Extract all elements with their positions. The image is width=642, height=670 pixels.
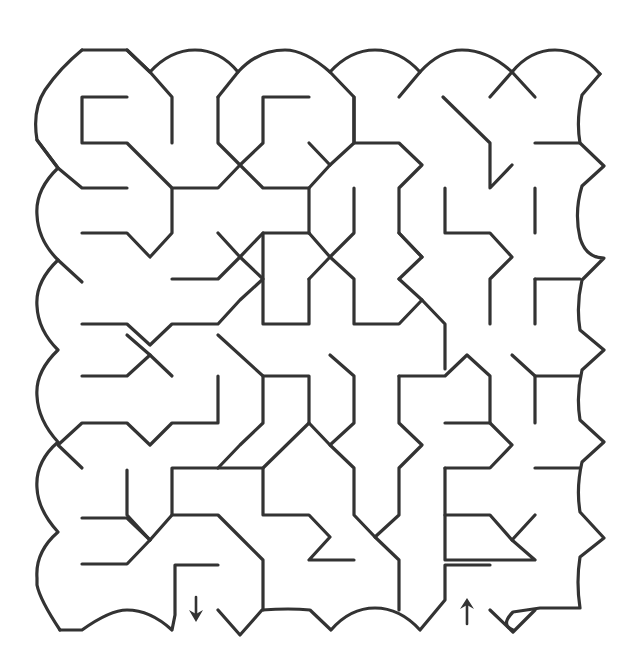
wall-segment	[422, 300, 445, 369]
wall-segment	[330, 72, 422, 257]
wall-segment	[82, 540, 150, 564]
wall-segment	[330, 257, 422, 324]
wall-segment	[82, 233, 309, 345]
outer-wall-bottom	[60, 565, 218, 630]
wall-segment	[309, 233, 330, 279]
wall-segment	[82, 355, 172, 376]
outer-wall-left	[36, 50, 82, 630]
maze-svg	[0, 0, 642, 670]
wall-segment	[218, 72, 238, 97]
wall-segment	[399, 233, 422, 279]
wall-segment	[58, 376, 218, 468]
wall-segment	[218, 335, 263, 468]
maze-walls	[36, 50, 604, 635]
wall-segment	[375, 376, 422, 537]
wall-segment	[127, 470, 150, 540]
wall-segment	[127, 335, 150, 355]
wall-segment	[82, 515, 172, 540]
wall-segment	[172, 233, 263, 279]
up-arrow-icon	[460, 598, 474, 624]
wall-segment	[82, 97, 309, 188]
wall-segment	[399, 72, 420, 97]
wall-segment	[445, 423, 512, 468]
wall-segment	[309, 97, 354, 165]
outer-wall-top	[82, 50, 600, 74]
wall-segment	[490, 72, 512, 97]
wall-segment	[309, 165, 330, 188]
outer-wall-bottom-mid	[218, 565, 490, 635]
wall-segment	[309, 423, 399, 610]
wall-segment	[330, 355, 354, 445]
wall-segment	[443, 97, 512, 188]
wall-segment	[82, 188, 172, 257]
wall-segment	[330, 188, 354, 257]
wall-segment	[512, 72, 535, 97]
wall-segment	[127, 50, 172, 143]
wall-segment	[172, 376, 309, 610]
wall-segment	[263, 468, 354, 560]
wall-segment	[512, 355, 535, 423]
wall-segment	[445, 515, 535, 540]
wall-segment	[37, 140, 127, 188]
wall-segment	[58, 260, 82, 282]
wall-segment	[445, 188, 512, 324]
down-arrow-icon	[189, 597, 203, 622]
